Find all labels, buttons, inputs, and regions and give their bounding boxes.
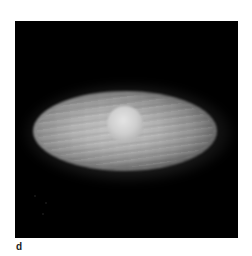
- noise-speck: [42, 213, 44, 215]
- noise-speck: [45, 202, 47, 204]
- panel-label: d: [16, 242, 22, 252]
- central-sphere: [107, 106, 143, 142]
- figure: d: [0, 0, 252, 256]
- noise-speck: [34, 195, 36, 197]
- image-panel: [15, 21, 238, 238]
